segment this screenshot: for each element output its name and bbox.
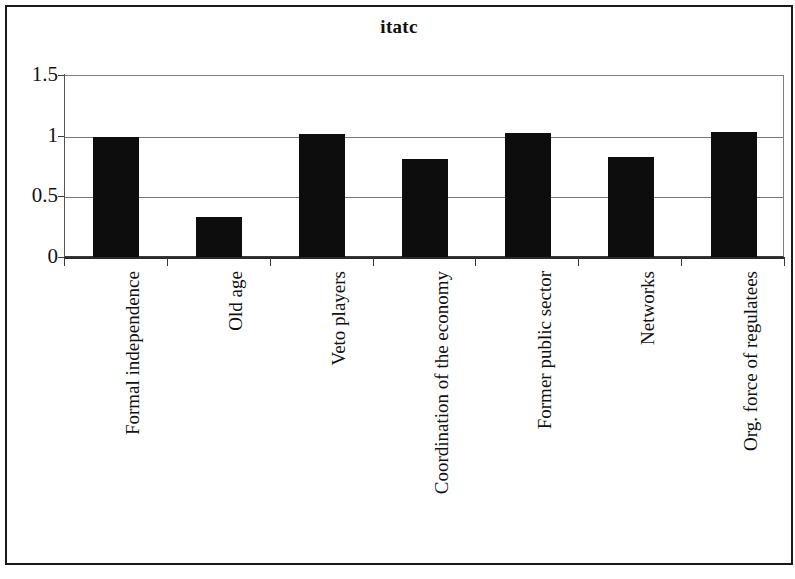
bar [711, 132, 757, 258]
y-axis-tick-labels: 00.511.5 [7, 7, 58, 567]
bar [299, 134, 345, 258]
gridline [65, 137, 783, 138]
x-axis-category-label: Coordination of the economy [432, 271, 451, 494]
y-axis-tick-mark [58, 257, 64, 258]
y-axis-tick-mark [58, 75, 64, 76]
plot-area [64, 75, 784, 257]
x-axis-category-label: Former public sector [535, 271, 554, 429]
x-axis-tick-mark [578, 258, 579, 266]
x-axis-category-label: Veto players [329, 271, 348, 365]
x-axis-category-label: Old age [226, 271, 245, 331]
y-axis-tick-label: 1 [10, 125, 58, 146]
bar [93, 137, 139, 258]
x-axis-tick-mark [784, 258, 785, 266]
x-axis-tick-mark [167, 258, 168, 266]
bar [196, 217, 242, 258]
bar [608, 157, 654, 258]
y-axis-line [64, 74, 65, 258]
x-axis-tick-mark [64, 258, 65, 266]
y-axis-tick-mark [58, 196, 64, 197]
chart-title: itatc [7, 16, 791, 38]
x-axis-category-label: Formal independence [123, 271, 142, 435]
y-axis-tick-label: 0.5 [10, 185, 58, 206]
y-axis-tick-label: 1.5 [10, 64, 58, 85]
bar [505, 133, 551, 258]
x-axis-line [64, 257, 785, 259]
y-axis-tick-mark [58, 136, 64, 137]
chart-frame: itatc 00.511.5 Formal independenceOld ag… [5, 5, 793, 565]
y-axis-tick-label: 0 [10, 246, 58, 267]
x-axis-tick-mark [681, 258, 682, 266]
x-axis-tick-mark [270, 258, 271, 266]
x-axis-category-label: Networks [638, 271, 657, 345]
x-axis-category-label: Org. force of regulatees [741, 271, 760, 451]
x-axis-tick-mark [373, 258, 374, 266]
x-axis-tick-mark [475, 258, 476, 266]
bar [402, 159, 448, 258]
